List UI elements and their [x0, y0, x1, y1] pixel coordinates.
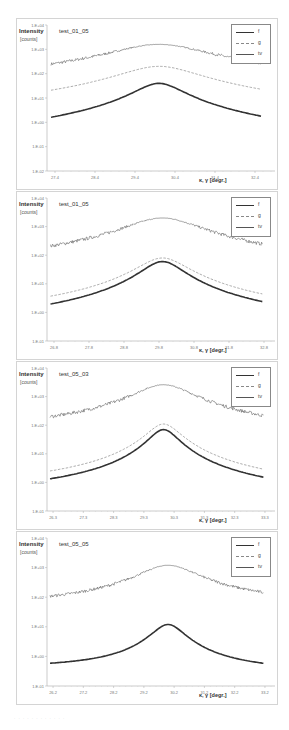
chart-panel-1: 1.E-021.E-011.E+001.E+011.E+021.E+031.E+…: [16, 18, 278, 190]
x-tick-label: 27.8: [85, 345, 94, 350]
y-tick-label: 1.E+01: [31, 281, 45, 286]
chart-title: test_01_05: [59, 201, 89, 207]
legend-label: g: [258, 552, 261, 558]
legend-swatch-tv: [236, 397, 254, 398]
chart-panel-3: 1.E-011.E+001.E+011.E+021.E+031.E+0426.3…: [16, 361, 278, 530]
x-tick-label: 29.3: [140, 515, 149, 520]
y-tick-label: 1.E+04: [31, 196, 45, 201]
x-tick-label: 29.4: [131, 175, 140, 180]
y-tick-label: 1.E+02: [31, 423, 45, 428]
y-tick-label: 1.E+03: [31, 394, 45, 399]
x-axis-label: κ, γ [degr.]: [199, 517, 227, 523]
y-tick-label: 1.E+02: [31, 71, 45, 76]
chart-title: test_05_05: [59, 541, 89, 547]
chart-title: test_01_05: [59, 28, 89, 34]
chart-title: test_05_03: [59, 371, 89, 377]
legend: fgtv: [231, 24, 271, 64]
x-axis-label: κ, γ [degr.]: [199, 177, 227, 183]
legend-swatch-tv: [236, 227, 254, 228]
legend-item-tv: tv: [236, 223, 268, 231]
series-g-line: [51, 66, 261, 90]
legend-swatch-f: [236, 32, 254, 33]
legend-item-g: g: [236, 212, 268, 220]
legend-item-tv: tv: [236, 563, 268, 571]
y-tick-label: 1.E+04: [31, 23, 45, 28]
legend-item-f: f: [236, 371, 268, 379]
x-tick-label: 26.8: [50, 345, 59, 350]
y-tick-label: 1.E-01: [32, 144, 45, 149]
x-tick-label: 29.8: [155, 345, 164, 350]
series-g-line: [50, 424, 263, 471]
y-tick-label: 1.E-02: [32, 169, 45, 174]
y-axis-unit: [counts]: [20, 36, 38, 42]
x-tick-label: 29.2: [140, 690, 149, 695]
legend-swatch-tv: [236, 54, 254, 55]
legend-item-g: g: [236, 382, 268, 390]
y-axis-label: Intensity: [19, 201, 44, 207]
legend-item-tv: tv: [236, 393, 268, 401]
chart-panel-2: 1.E-011.E+001.E+011.E+021.E+031.E+0426.8…: [16, 191, 278, 360]
legend-label: tv: [258, 50, 262, 56]
y-tick-label: 1.E-01: [32, 509, 45, 514]
legend-label: f: [258, 28, 259, 34]
x-tick-label: 30.8: [190, 345, 199, 350]
y-tick-label: 1.E+00: [31, 120, 45, 125]
x-tick-label: 30.2: [170, 690, 179, 695]
y-tick-label: 1.E+02: [31, 253, 45, 258]
x-tick-label: 32.4: [251, 175, 260, 180]
series-f-line: [50, 430, 263, 479]
series-f-line: [51, 83, 261, 117]
y-axis-unit: [counts]: [20, 549, 38, 555]
y-axis-unit: [counts]: [20, 209, 38, 215]
y-axis-label: Intensity: [19, 541, 44, 547]
legend: fgtv: [231, 537, 271, 577]
legend-item-f: f: [236, 201, 268, 209]
legend: fgtv: [231, 367, 271, 407]
legend-swatch-tv: [236, 567, 254, 568]
x-tick-label: 32.3: [231, 515, 240, 520]
x-tick-label: 30.3: [170, 515, 179, 520]
legend-label: tv: [258, 223, 262, 229]
x-tick-label: 27.3: [79, 515, 88, 520]
series-f-line: [50, 625, 263, 664]
legend-label: tv: [258, 393, 262, 399]
x-tick-label: 28.3: [110, 515, 119, 520]
series-f-line: [51, 262, 263, 304]
x-tick-label: 32.8: [260, 345, 269, 350]
series-tv-line: [51, 44, 261, 65]
y-tick-label: 1.E+00: [31, 480, 45, 485]
x-axis-label: κ, γ [degr.]: [199, 347, 227, 353]
y-tick-label: 1.E+01: [31, 96, 45, 101]
x-tick-label: 28.4: [91, 175, 100, 180]
legend-swatch-f: [236, 545, 254, 546]
y-tick-label: 1.E+03: [31, 565, 45, 570]
legend-swatch-g: [236, 556, 254, 557]
x-tick-label: 27.2: [79, 690, 88, 695]
y-tick-label: 1.E-01: [32, 339, 45, 344]
x-tick-label: 32.2: [231, 690, 240, 695]
x-tick-label: 28.8: [120, 345, 129, 350]
y-tick-label: 1.E+01: [31, 624, 45, 629]
y-tick-label: 1.E-01: [32, 684, 45, 689]
legend-label: f: [258, 371, 259, 377]
legend-swatch-g: [236, 43, 254, 44]
legend-item-f: f: [236, 28, 268, 36]
y-tick-label: 1.E+00: [31, 654, 45, 659]
x-tick-label: 26.2: [49, 690, 58, 695]
x-tick-label: 33.2: [261, 690, 270, 695]
legend-swatch-f: [236, 205, 254, 206]
legend-label: tv: [258, 563, 262, 569]
y-axis-label: Intensity: [19, 371, 44, 377]
y-tick-label: 1.E+03: [31, 47, 45, 52]
legend-label: f: [258, 541, 259, 547]
legend-label: g: [258, 382, 261, 388]
legend-item-f: f: [236, 541, 268, 549]
y-axis-unit: [counts]: [20, 379, 38, 385]
chart-panel-4: 1.E-011.E+001.E+011.E+021.E+031.E+0426.2…: [16, 531, 278, 705]
series-g-line: [51, 258, 263, 296]
x-tick-label: 28.2: [110, 690, 119, 695]
y-tick-label: 1.E+00: [31, 310, 45, 315]
y-axis-label: Intensity: [19, 28, 44, 34]
x-tick-label: 33.3: [261, 515, 270, 520]
x-axis-label: κ, γ [degr.]: [199, 692, 227, 698]
